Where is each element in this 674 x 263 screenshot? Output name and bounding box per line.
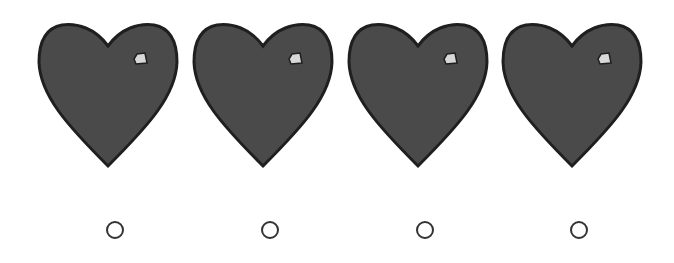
heart-icon[interactable] [501,20,643,170]
option-2-radio[interactable] [261,221,279,239]
heart-icon[interactable] [192,20,334,170]
option-2[interactable] [192,0,347,263]
option-4[interactable] [501,0,656,263]
option-4-radio[interactable] [570,221,588,239]
heart-icon[interactable] [37,20,179,170]
heart-icon[interactable] [347,20,489,170]
option-3[interactable] [347,0,502,263]
option-1-radio[interactable] [106,221,124,239]
option-3-radio[interactable] [416,221,434,239]
option-1[interactable] [37,0,192,263]
